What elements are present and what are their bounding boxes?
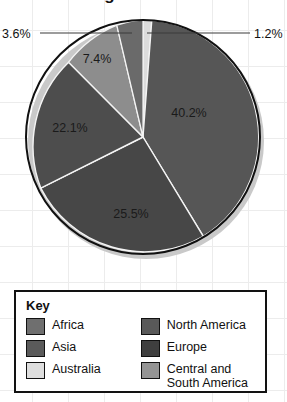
pie-value-label-africa: 25.5% [113,207,148,221]
legend-title: Key [26,299,257,313]
legend-swatch-central-south-america [141,362,160,379]
legend-box: Key Africa Asia Australia [14,290,267,393]
legend-item-central-south-america: Central and South America [141,362,257,390]
chart-page: Regional share [0,0,287,402]
pie-value-label-north-america: 22.1% [52,121,87,135]
legend-swatch-asia [26,340,45,357]
legend-label-central-south-america: Central and South America [167,362,248,390]
legend-swatch-north-america [141,318,160,335]
pie-value-label-central-south-america: 7.4% [83,52,112,66]
legend-swatch-africa [26,318,45,335]
legend-label-asia: Asia [52,340,76,354]
legend-item-australia: Australia [26,362,131,379]
legend-label-australia: Australia [52,362,101,376]
legend-swatch-europe [141,340,160,357]
legend-item-africa: Africa [26,318,131,335]
pie-callout-label-australia: 1.2% [254,27,283,41]
pie-chart-svg: 3.6% 1.2% 40.2% 25.5% 22.1% 7.4% [0,0,287,275]
legend-column-left: Africa Asia Australia [26,318,131,390]
pie-callout-label-europe: 3.6% [2,27,31,41]
legend-label-europe: Europe [167,340,207,354]
legend-label-north-america: North America [167,318,246,332]
legend-item-north-america: North America [141,318,257,335]
legend-label-africa: Africa [52,318,84,332]
legend-columns: Africa Asia Australia North America [26,318,257,390]
pie-value-label-asia: 40.2% [171,106,206,120]
pie-chart: 3.6% 1.2% 40.2% 25.5% 22.1% 7.4% [0,0,287,275]
legend-swatch-australia [26,362,45,379]
legend-item-asia: Asia [26,340,131,357]
legend-column-right: North America Europe Central and South A… [141,318,257,390]
legend-item-europe: Europe [141,340,257,357]
